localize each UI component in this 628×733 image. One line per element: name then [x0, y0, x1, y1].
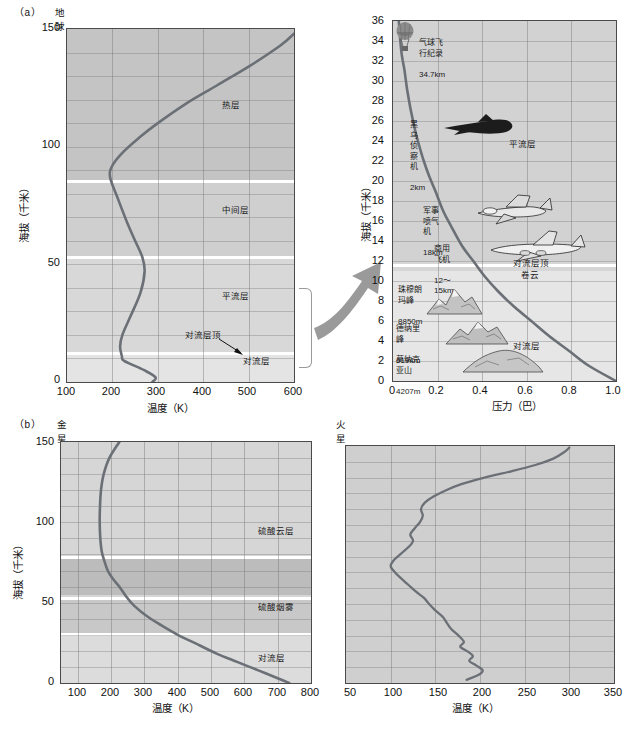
annot-blackbird-label: 黑乌侦察机 — [410, 120, 418, 171]
venus-yaxis-title: 海拔（千米） — [10, 540, 25, 600]
annot-balloon-value: 34.7km — [419, 70, 445, 79]
venus-xtick-500: 500 — [196, 686, 224, 698]
pressure-ytick-10: 10 — [348, 274, 384, 286]
pressure-ytick-36: 36 — [348, 14, 384, 26]
mars-xtick-150: 150 — [424, 686, 452, 698]
mars-temperature-profile-line — [391, 448, 570, 680]
pressure-ytick-8: 8 — [348, 294, 384, 306]
pressure-ytick-24: 24 — [348, 134, 384, 146]
venus-ytick-100: 100 — [16, 515, 54, 527]
annot-everest-label: 珠穆朗玛峰 — [398, 285, 422, 304]
panel-a-tag: （a） — [14, 4, 41, 19]
pressure-ytick-4: 4 — [348, 334, 384, 346]
venus-xtick-200: 200 — [96, 686, 124, 698]
pressure-xtick-02: 0.2 — [420, 384, 452, 396]
venus-layer-troposphere: 对流层 — [258, 653, 285, 664]
mars-temperature-profile-curve-layer — [346, 446, 614, 683]
annot-denali-label: 德纳里峰 — [396, 324, 420, 343]
venus-xtick-300: 300 — [129, 686, 157, 698]
venus-layer-sulfuric-cloud: 硫酸云层 — [258, 526, 294, 537]
venus-temperature-profile-line — [100, 442, 290, 683]
annot-commercial-aircraft: 商用飞机 12～15km — [434, 234, 454, 296]
earth-xtick-600: 600 — [279, 385, 307, 397]
earth-ytick-50: 50 — [22, 256, 60, 268]
mars-xtick-200: 200 — [468, 686, 496, 698]
pressure-xaxis-title: 压力（巴） — [492, 398, 542, 413]
annot-mauna-kea-value: 4207m — [396, 387, 420, 396]
venus-ytick-0: 0 — [16, 675, 54, 687]
pressure-ytick-28: 28 — [348, 94, 384, 106]
annot-mauna-kea-label: 莫纳克亚山 — [396, 355, 420, 374]
venus-ytick-150: 150 — [16, 435, 54, 447]
earth-ytick-100: 100 — [22, 138, 60, 150]
earth-xtick-100: 100 — [52, 385, 80, 397]
earth-layer-mesosphere: 中间层 — [222, 205, 249, 216]
earth-ytick-150: 150 — [22, 21, 60, 33]
venus-temperature-profile-curve-layer — [61, 442, 311, 683]
panel-b-tag: （b） — [14, 416, 41, 431]
pressure-ytick-2: 2 — [348, 354, 384, 366]
pressure-xtick-04: 0.4 — [464, 384, 496, 396]
pressure-xtick-08: 0.8 — [553, 384, 585, 396]
pressure-layer-troposphere: 对流层 — [513, 341, 540, 352]
mars-xtick-100: 100 — [379, 686, 407, 698]
annot-military-jet-label: 军事喷气机 — [423, 206, 439, 236]
pressure-layer-tropopause: 对流层顶 — [513, 258, 549, 269]
earth-layer-stratosphere: 平流层 — [222, 291, 249, 302]
pressure-ytick-6: 6 — [348, 314, 384, 326]
venus-xtick-800: 800 — [296, 686, 324, 698]
pressure-layer-stratosphere: 平流层 — [509, 139, 536, 150]
pressure-ytick-22: 22 — [348, 154, 384, 166]
venus-temperature-plot — [60, 441, 312, 684]
venus-xtick-600: 600 — [229, 686, 257, 698]
annot-balloon-label: 气球飞行纪录 — [419, 38, 443, 57]
mars-xaxis-title: 温度（K） — [452, 700, 499, 715]
mars-panel-title: 火星 — [336, 417, 346, 445]
mars-xtick-250: 250 — [513, 686, 541, 698]
mars-xtick-50: 50 — [338, 686, 362, 698]
venus-xtick-700: 700 — [263, 686, 291, 698]
earth-ytick-0: 0 — [22, 373, 60, 385]
pressure-layer-cirrus: 卷云 — [521, 270, 539, 281]
pressure-ytick-12: 12 — [348, 254, 384, 266]
mars-temperature-plot — [345, 445, 615, 684]
earth-yaxis-title: 海拔（千米） — [16, 183, 31, 243]
earth-temperature-plot — [66, 28, 295, 383]
annot-mauna-kea: 莫纳克亚山 4207m — [396, 345, 420, 397]
venus-xtick-100: 100 — [63, 686, 91, 698]
earth-layer-thermosphere: 热层 — [222, 100, 240, 111]
pressure-ytick-32: 32 — [348, 54, 384, 66]
pressure-ytick-26: 26 — [348, 114, 384, 126]
pressure-yaxis-title: 海拔（千米） — [358, 182, 373, 242]
mars-xtick-300: 300 — [557, 686, 585, 698]
venus-xtick-400: 400 — [163, 686, 191, 698]
earth-xtick-300: 300 — [142, 385, 170, 397]
annot-commercial-label: 商用飞机 — [434, 244, 450, 263]
earth-layer-troposphere: 对流层 — [243, 356, 270, 367]
pressure-ytick-30: 30 — [348, 74, 384, 86]
annot-blackbird: 黑乌侦察机 2km — [410, 110, 425, 193]
pressure-xtick-10: 1.0 — [597, 384, 628, 396]
earth-temperature-profile-curve-layer — [67, 29, 294, 382]
zoom-bracket — [299, 288, 312, 368]
annot-blackbird-value: 2km — [410, 183, 425, 192]
pressure-xtick-06: 0.6 — [509, 384, 541, 396]
earth-xtick-400: 400 — [188, 385, 216, 397]
venus-layer-sulfuric-haze: 硫酸烟雾 — [258, 602, 294, 613]
earth-xtick-500: 500 — [233, 385, 261, 397]
annot-balloon-record: 气球飞行纪录 34.7km — [419, 28, 445, 80]
earth-layer-tropopause: 对流层顶 — [185, 330, 221, 341]
earth-xaxis-title: 温度（K） — [147, 400, 194, 415]
annot-commercial-value: 12～15km — [434, 276, 454, 295]
venus-xaxis-title: 温度（K） — [152, 700, 199, 715]
pressure-ytick-34: 34 — [348, 34, 384, 46]
earth-xtick-200: 200 — [97, 385, 125, 397]
mars-xtick-350: 350 — [599, 686, 627, 698]
